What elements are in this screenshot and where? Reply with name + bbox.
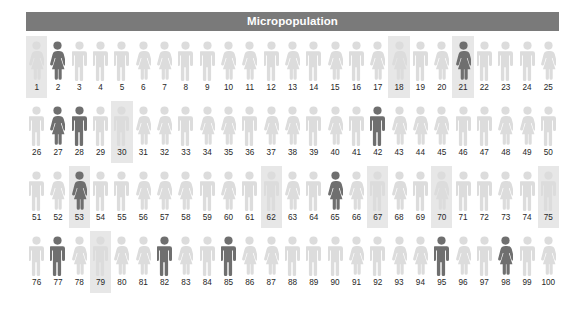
person-unit[interactable]: 75 xyxy=(538,166,559,228)
person-unit[interactable]: 60 xyxy=(218,166,239,228)
person-unit[interactable]: 17 xyxy=(367,36,388,98)
person-unit[interactable]: 52 xyxy=(47,166,68,228)
person-unit[interactable]: 95 xyxy=(431,231,452,293)
person-unit[interactable]: 99 xyxy=(516,231,537,293)
person-unit[interactable]: 72 xyxy=(474,166,495,228)
person-unit[interactable]: 14 xyxy=(303,36,324,98)
person-unit[interactable]: 24 xyxy=(516,36,537,98)
person-unit[interactable]: 100 xyxy=(538,231,559,293)
person-unit[interactable]: 39 xyxy=(303,101,324,163)
person-unit[interactable]: 30 xyxy=(111,101,132,163)
person-unit[interactable]: 79 xyxy=(90,231,111,293)
person-unit[interactable]: 32 xyxy=(154,101,175,163)
person-unit[interactable]: 66 xyxy=(346,166,367,228)
person-unit[interactable]: 61 xyxy=(239,166,260,228)
person-unit[interactable]: 76 xyxy=(26,231,47,293)
person-unit[interactable]: 55 xyxy=(111,166,132,228)
person-unit[interactable]: 68 xyxy=(388,166,409,228)
person-unit[interactable]: 19 xyxy=(410,36,431,98)
person-unit[interactable]: 59 xyxy=(197,166,218,228)
person-unit[interactable]: 78 xyxy=(69,231,90,293)
person-unit[interactable]: 96 xyxy=(452,231,473,293)
person-unit[interactable]: 63 xyxy=(282,166,303,228)
person-unit[interactable]: 69 xyxy=(410,166,431,228)
person-unit[interactable]: 83 xyxy=(175,231,196,293)
person-unit[interactable]: 74 xyxy=(516,166,537,228)
person-unit[interactable]: 33 xyxy=(175,101,196,163)
person-unit[interactable]: 15 xyxy=(324,36,345,98)
person-unit[interactable]: 23 xyxy=(495,36,516,98)
person-unit[interactable]: 97 xyxy=(474,231,495,293)
person-unit[interactable]: 48 xyxy=(495,101,516,163)
person-unit[interactable]: 80 xyxy=(111,231,132,293)
person-unit[interactable]: 82 xyxy=(154,231,175,293)
person-unit[interactable]: 12 xyxy=(261,36,282,98)
person-unit[interactable]: 77 xyxy=(47,231,68,293)
person-unit[interactable]: 49 xyxy=(516,101,537,163)
person-unit[interactable]: 1 xyxy=(26,36,47,98)
person-unit[interactable]: 35 xyxy=(218,101,239,163)
person-unit[interactable]: 70 xyxy=(431,166,452,228)
person-unit[interactable]: 92 xyxy=(367,231,388,293)
person-unit[interactable]: 7 xyxy=(154,36,175,98)
person-unit[interactable]: 67 xyxy=(367,166,388,228)
person-unit[interactable]: 10 xyxy=(218,36,239,98)
person-unit[interactable]: 90 xyxy=(324,231,345,293)
person-unit[interactable]: 93 xyxy=(388,231,409,293)
person-unit[interactable]: 91 xyxy=(346,231,367,293)
person-unit[interactable]: 21 xyxy=(452,36,473,98)
person-unit[interactable]: 18 xyxy=(388,36,409,98)
person-unit[interactable]: 8 xyxy=(175,36,196,98)
person-unit[interactable]: 81 xyxy=(133,231,154,293)
person-unit[interactable]: 98 xyxy=(495,231,516,293)
person-unit[interactable]: 87 xyxy=(261,231,282,293)
person-unit[interactable]: 3 xyxy=(69,36,90,98)
person-unit[interactable]: 53 xyxy=(69,166,90,228)
person-unit[interactable]: 50 xyxy=(538,101,559,163)
person-unit[interactable]: 64 xyxy=(303,166,324,228)
person-unit[interactable]: 46 xyxy=(452,101,473,163)
person-unit[interactable]: 40 xyxy=(324,101,345,163)
person-unit[interactable]: 54 xyxy=(90,166,111,228)
person-unit[interactable]: 11 xyxy=(239,36,260,98)
person-unit[interactable]: 58 xyxy=(175,166,196,228)
person-unit[interactable]: 38 xyxy=(282,101,303,163)
person-unit[interactable]: 4 xyxy=(90,36,111,98)
person-unit[interactable]: 84 xyxy=(197,231,218,293)
person-unit[interactable]: 22 xyxy=(474,36,495,98)
person-unit[interactable]: 42 xyxy=(367,101,388,163)
person-unit[interactable]: 56 xyxy=(133,166,154,228)
person-unit[interactable]: 57 xyxy=(154,166,175,228)
person-unit[interactable]: 45 xyxy=(431,101,452,163)
person-unit[interactable]: 27 xyxy=(47,101,68,163)
person-unit[interactable]: 37 xyxy=(261,101,282,163)
person-unit[interactable]: 94 xyxy=(410,231,431,293)
person-unit[interactable]: 43 xyxy=(388,101,409,163)
person-unit[interactable]: 73 xyxy=(495,166,516,228)
person-unit[interactable]: 29 xyxy=(90,101,111,163)
person-unit[interactable]: 31 xyxy=(133,101,154,163)
person-unit[interactable]: 20 xyxy=(431,36,452,98)
person-unit[interactable]: 2 xyxy=(47,36,68,98)
person-unit[interactable]: 13 xyxy=(282,36,303,98)
person-unit[interactable]: 89 xyxy=(303,231,324,293)
person-unit[interactable]: 88 xyxy=(282,231,303,293)
person-unit[interactable]: 47 xyxy=(474,101,495,163)
person-unit[interactable]: 34 xyxy=(197,101,218,163)
person-unit[interactable]: 86 xyxy=(239,231,260,293)
person-unit[interactable]: 85 xyxy=(218,231,239,293)
person-unit[interactable]: 28 xyxy=(69,101,90,163)
person-unit[interactable]: 36 xyxy=(239,101,260,163)
person-unit[interactable]: 51 xyxy=(26,166,47,228)
person-unit[interactable]: 25 xyxy=(538,36,559,98)
person-unit[interactable]: 62 xyxy=(261,166,282,228)
person-unit[interactable]: 6 xyxy=(133,36,154,98)
person-unit[interactable]: 26 xyxy=(26,101,47,163)
person-unit[interactable]: 71 xyxy=(452,166,473,228)
person-unit[interactable]: 9 xyxy=(197,36,218,98)
person-unit[interactable]: 16 xyxy=(346,36,367,98)
person-unit[interactable]: 5 xyxy=(111,36,132,98)
person-unit[interactable]: 44 xyxy=(410,101,431,163)
person-unit[interactable]: 41 xyxy=(346,101,367,163)
person-unit[interactable]: 65 xyxy=(324,166,345,228)
